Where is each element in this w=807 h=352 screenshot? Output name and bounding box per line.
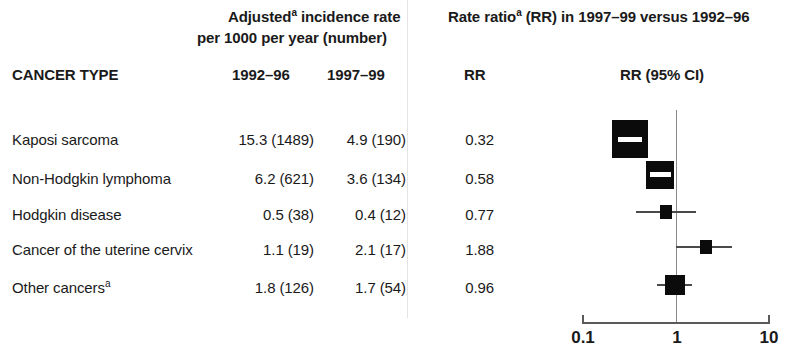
forest-plot-panel: 0.1 1 10: [560, 96, 807, 352]
row-rate-1992-96: 6.2 (621): [206, 170, 314, 187]
forest-marker-uterine-cervix: [700, 240, 712, 254]
row-label-footnote: a: [105, 278, 110, 289]
row-rate-1997-99: 0.4 (12): [320, 206, 406, 223]
incidence-rate-header-line2: per 1000 per year (number): [197, 29, 387, 46]
row-rate-1997-99: 2.1 (17): [320, 241, 406, 258]
x-axis-tick-min: [582, 315, 584, 323]
row-rr-value: 1.88: [440, 241, 494, 258]
column-header-rr-ci: RR (95% CI): [620, 66, 704, 83]
forest-marker-hodgkin-disease: [660, 205, 672, 219]
row-rate-1992-96: 0.5 (38): [206, 206, 314, 223]
rate-ratio-header-pre: Rate ratio: [448, 8, 516, 25]
column-header-cancer-type: CANCER TYPE: [12, 66, 118, 83]
table-row: Other cancersa: [12, 279, 222, 296]
row-rr-value: 0.58: [440, 170, 494, 187]
row-rate-1997-99: 1.7 (54): [320, 279, 406, 296]
rate-ratio-header-rest: (RR) in 1997–99 versus 1992–96: [522, 8, 750, 25]
row-label: Kaposi sarcoma: [12, 131, 118, 148]
x-axis-label-0-1: 0.1: [562, 328, 604, 348]
column-header-rr: RR: [464, 66, 485, 83]
x-axis-label-10: 10: [748, 328, 790, 348]
row-label: Non-Hodgkin lymphoma: [12, 170, 171, 187]
table-row: Non-Hodgkin lymphoma: [12, 170, 222, 187]
row-rr-value: 0.32: [440, 131, 494, 148]
incidence-rate-header-rest: incidence rate: [297, 8, 401, 25]
row-rate-1997-99: 3.6 (134): [320, 170, 406, 187]
x-axis-label-1: 1: [656, 328, 698, 348]
forest-marker-kaposi-sarcoma: [612, 120, 648, 158]
table-row: Cancer of the uterine cervix: [12, 241, 222, 258]
x-axis-tick-max: [768, 315, 770, 323]
forest-marker-other-cancers: [665, 275, 685, 295]
row-label: Hodgkin disease: [12, 206, 121, 223]
row-rate-1992-96: 1.8 (126): [206, 279, 314, 296]
column-header-1992-96: 1992–96: [232, 66, 290, 83]
row-rate-1992-96: 15.3 (1489): [206, 131, 314, 148]
row-rate-1997-99: 4.9 (190): [320, 131, 406, 148]
rate-ratio-header: Rate ratioa (RR) in 1997–99 versus 1992–…: [448, 8, 750, 25]
row-label: Other cancers: [12, 279, 105, 296]
forest-marker-non-hodgkin-lymphoma: [646, 161, 674, 189]
incidence-rate-header-line1: Adjusteda incidence rate: [228, 8, 400, 25]
row-rate-1992-96: 1.1 (19): [206, 241, 314, 258]
forest-plot-figure: Adjusteda incidence rate per 1000 per ye…: [0, 0, 807, 352]
table-row: Hodgkin disease: [12, 206, 222, 223]
incidence-rate-header-text: Adjusted: [228, 8, 291, 25]
table-row: Kaposi sarcoma: [12, 131, 222, 148]
column-header-1997-99: 1997–99: [327, 66, 385, 83]
row-label: Cancer of the uterine cervix: [12, 241, 193, 258]
confidence-interval-non-hodgkin-lymphoma: [650, 172, 671, 177]
row-rr-value: 0.96: [440, 279, 494, 296]
x-axis-line: [582, 322, 770, 324]
row-rr-value: 0.77: [440, 206, 494, 223]
column-separator: [407, 0, 408, 318]
confidence-interval-kaposi-sarcoma: [618, 137, 642, 142]
